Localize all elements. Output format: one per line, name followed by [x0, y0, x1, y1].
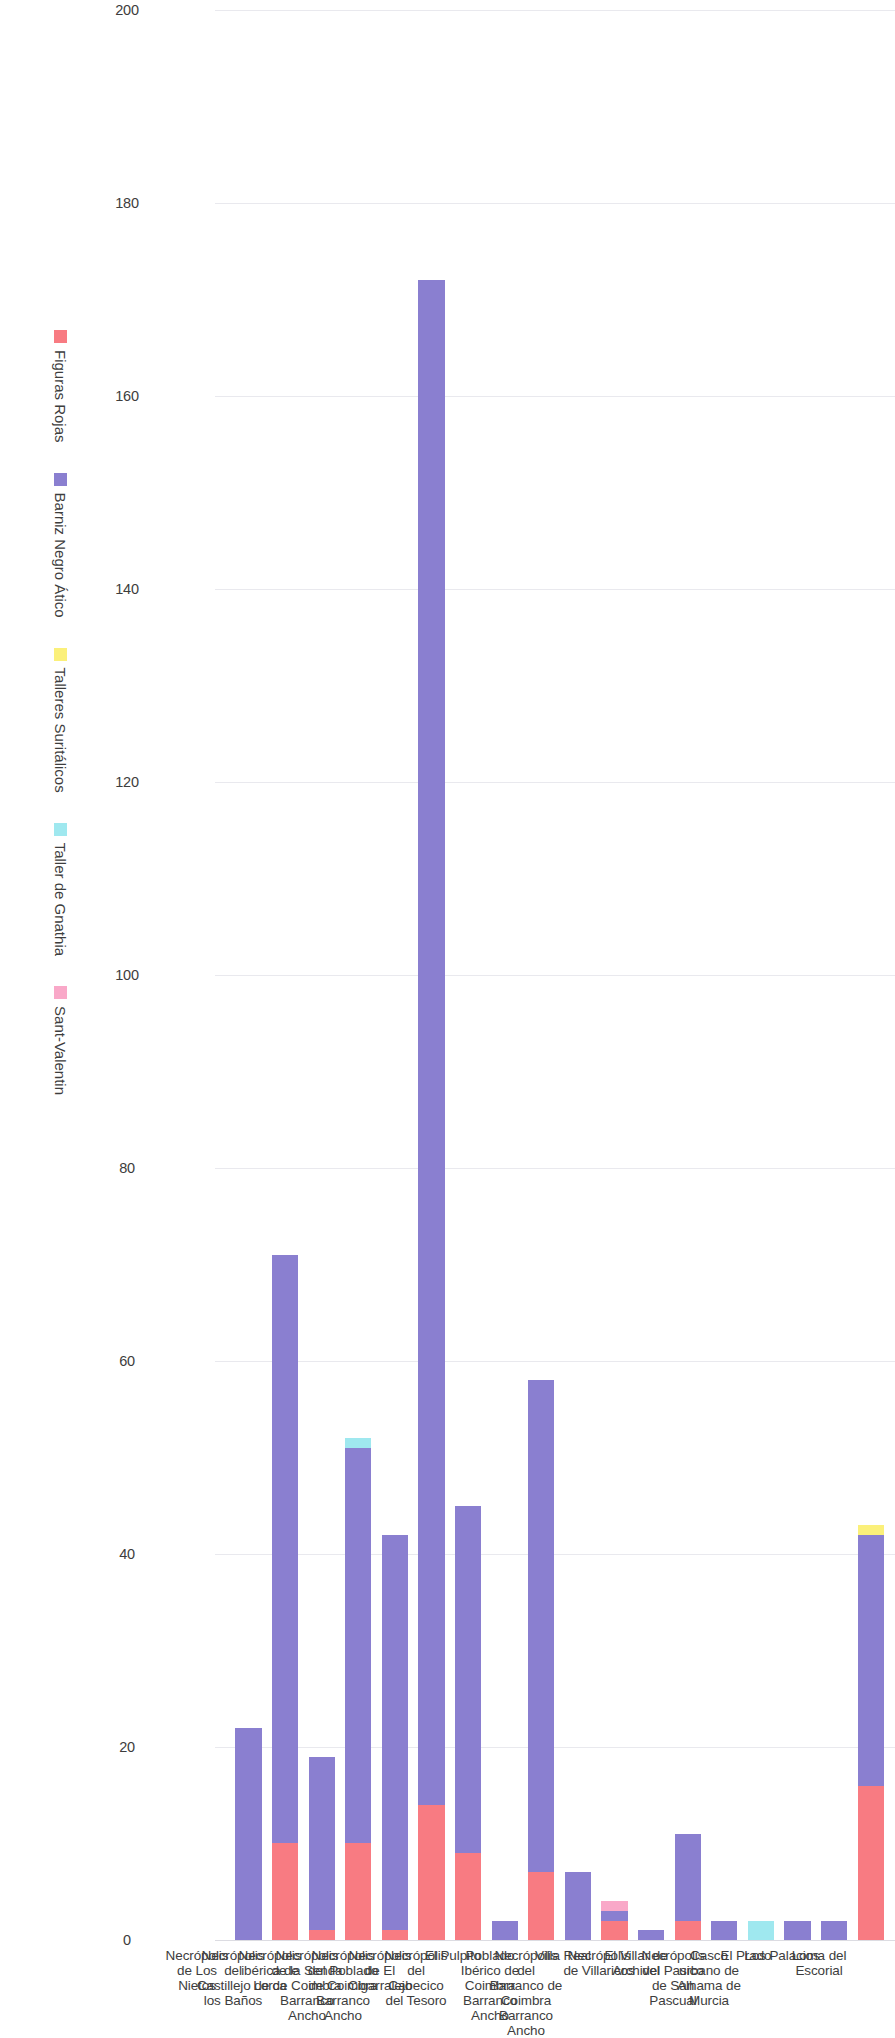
bar-segment[interactable]: [345, 1438, 371, 1448]
bar-segment[interactable]: [382, 1930, 408, 1940]
legend-item[interactable]: Taller de Gnathia: [52, 823, 69, 956]
bar-segment[interactable]: [455, 1853, 481, 1940]
bar-segment[interactable]: [675, 1834, 701, 1921]
bar-segment[interactable]: [418, 1805, 444, 1940]
category-label-line: Ancho: [507, 2023, 545, 2038]
bar-segment[interactable]: [528, 1872, 554, 1940]
bar-segment[interactable]: [345, 1843, 371, 1940]
stacked-bar[interactable]: [565, 1872, 591, 1940]
bar-segment[interactable]: [565, 1872, 591, 1940]
legend-swatch-icon: [54, 986, 67, 999]
stacked-bar[interactable]: [784, 1921, 810, 1940]
stacked-bar[interactable]: [858, 1525, 884, 1940]
value-tick-label: 80: [97, 1160, 157, 1176]
legend-swatch-icon: [54, 648, 67, 661]
bar-segment[interactable]: [675, 1921, 701, 1940]
stacked-bar[interactable]: [675, 1834, 701, 1940]
category-label-line: Ancho: [471, 2008, 509, 2023]
legend-item[interactable]: Sant-Valentin: [52, 986, 69, 1095]
legend-item[interactable]: Talleres Suritálicos: [52, 648, 69, 793]
category-label-line: de Los: [177, 1963, 217, 1978]
chart-legend: Figuras RojasBarniz Negro ÁticoTalleres …: [52, 330, 69, 1530]
value-tick-label: 20: [97, 1739, 157, 1755]
legend-item[interactable]: Barniz Negro Ático: [52, 473, 69, 618]
plot-area: [215, 0, 895, 2009]
category-label-line: Necrópolis: [165, 1948, 228, 1963]
bar-segment[interactable]: [711, 1921, 737, 1940]
category-label-line: del Tesoro: [386, 1993, 447, 2008]
legend-label: Figuras Rojas: [52, 350, 69, 443]
stacked-bar[interactable]: [821, 1921, 847, 1940]
stacked-bar[interactable]: [638, 1930, 664, 1940]
stacked-bar[interactable]: [748, 1921, 774, 1940]
bar-segment[interactable]: [272, 1843, 298, 1940]
category-label-line: Pascual: [649, 1993, 696, 2008]
category-label-line: Nietos: [178, 1978, 216, 1993]
stacked-bar[interactable]: [235, 1728, 261, 1940]
bar-segment[interactable]: [784, 1921, 810, 1940]
legend-label: Barniz Negro Ático: [52, 493, 69, 618]
bar-segment[interactable]: [418, 280, 444, 1805]
bar-segment[interactable]: [272, 1255, 298, 1844]
bar-segment[interactable]: [858, 1525, 884, 1535]
legend-label: Taller de Gnathia: [52, 843, 69, 956]
stacked-bar[interactable]: [309, 1757, 335, 1940]
legend-item[interactable]: Figuras Rojas: [52, 330, 69, 443]
bar-segment[interactable]: [235, 1728, 261, 1940]
value-tick-label: 0: [97, 1932, 157, 1948]
legend-label: Sant-Valentin: [52, 1006, 69, 1095]
value-tick-label: 140: [97, 581, 157, 597]
stacked-bar[interactable]: [492, 1921, 518, 1940]
category-label-line: Barranco: [280, 1993, 334, 2008]
value-tick-label: 200: [97, 2, 157, 18]
bar-segment[interactable]: [858, 1535, 884, 1786]
bar-segment[interactable]: [528, 1380, 554, 1872]
stacked-bar[interactable]: [711, 1921, 737, 1940]
bar-segment[interactable]: [821, 1921, 847, 1940]
bar-segment[interactable]: [455, 1506, 481, 1853]
bar-row[interactable]: [203, 0, 267, 2009]
category-label-line: Barranco: [463, 1993, 517, 2008]
stacked-bar[interactable]: [272, 1255, 298, 1940]
legend-swatch-icon: [54, 330, 67, 343]
value-tick-label: 100: [97, 967, 157, 983]
bar-segment[interactable]: [492, 1921, 518, 1940]
legend-label: Talleres Suritálicos: [52, 668, 69, 793]
value-tick-label: 40: [97, 1546, 157, 1562]
category-label-line: los Baños: [204, 1993, 262, 2008]
bar-segment[interactable]: [601, 1901, 627, 1911]
stacked-bar[interactable]: [601, 1901, 627, 1940]
stacked-bar[interactable]: [382, 1535, 408, 1940]
stacked-bar[interactable]: [528, 1380, 554, 1940]
bar-segment[interactable]: [309, 1757, 335, 1931]
value-tick-label: 160: [97, 388, 157, 404]
value-tick-label: 180: [97, 195, 157, 211]
bar-segment[interactable]: [601, 1921, 627, 1940]
bar-segment[interactable]: [382, 1535, 408, 1931]
bar-segment[interactable]: [748, 1921, 774, 1940]
bar-segment[interactable]: [858, 1786, 884, 1940]
value-tick-label: 60: [97, 1353, 157, 1369]
category-label-line: Ancho: [288, 2008, 326, 2023]
stacked-bar[interactable]: [418, 280, 444, 1940]
bar-segment[interactable]: [345, 1448, 371, 1844]
stacked-bar[interactable]: [345, 1438, 371, 1940]
category-label: Necrópolisde LosNietos: [127, 1948, 267, 1985]
legend-swatch-icon: [54, 823, 67, 836]
bar-segment[interactable]: [309, 1930, 335, 1940]
bar-segment[interactable]: [638, 1930, 664, 1940]
category-label-line: Ancho: [324, 2008, 362, 2023]
bar-segment[interactable]: [601, 1911, 627, 1921]
stacked-bar[interactable]: [455, 1506, 481, 1940]
value-tick-label: 120: [97, 774, 157, 790]
legend-swatch-icon: [54, 473, 67, 486]
